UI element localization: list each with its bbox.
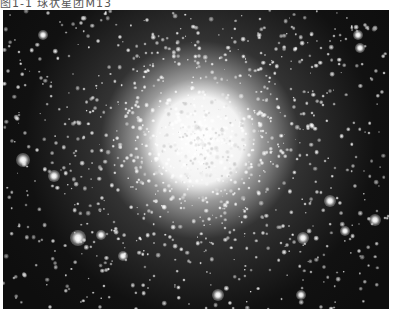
star (216, 178, 221, 183)
star (24, 84, 27, 87)
star (218, 109, 220, 111)
star (17, 226, 19, 228)
star (250, 173, 254, 177)
bright-star (16, 153, 30, 167)
star (154, 184, 158, 188)
star (9, 14, 11, 16)
star (188, 303, 190, 305)
star (329, 72, 334, 77)
star (200, 173, 204, 177)
star (329, 45, 334, 50)
star (150, 108, 155, 113)
star (4, 254, 9, 259)
star (228, 167, 232, 171)
star (252, 143, 255, 146)
star (29, 48, 34, 53)
star (210, 71, 214, 75)
star (75, 86, 80, 91)
star (145, 233, 150, 238)
star (239, 74, 243, 78)
star (182, 192, 187, 197)
star (93, 106, 97, 110)
star (238, 278, 241, 281)
star (67, 287, 70, 290)
star (232, 162, 237, 167)
star (162, 167, 164, 169)
star (159, 132, 161, 134)
star (314, 63, 319, 68)
star (296, 158, 299, 161)
star (179, 206, 182, 209)
star (223, 180, 225, 182)
star (220, 215, 223, 218)
bright-star (96, 230, 106, 240)
star (100, 298, 102, 300)
star (224, 226, 227, 229)
star (51, 161, 55, 165)
star (324, 160, 326, 162)
star (176, 32, 179, 35)
star (274, 47, 278, 51)
star (257, 32, 259, 34)
star (211, 137, 213, 139)
star (330, 58, 334, 62)
star (252, 129, 256, 133)
star (85, 100, 89, 104)
star (138, 126, 143, 131)
star (159, 106, 161, 108)
star (283, 154, 287, 158)
star (101, 82, 103, 84)
star (301, 198, 303, 200)
star (292, 240, 296, 244)
star (131, 125, 135, 129)
star (178, 224, 183, 229)
star (285, 148, 289, 152)
star (231, 130, 234, 133)
star (233, 229, 236, 232)
star (207, 127, 209, 129)
star (279, 112, 281, 114)
star (142, 291, 147, 296)
star (192, 122, 194, 124)
star (198, 122, 201, 125)
star (226, 159, 229, 162)
star (92, 291, 95, 294)
star (98, 263, 103, 268)
star (158, 169, 163, 174)
star (253, 232, 256, 235)
star (355, 155, 358, 158)
star (151, 160, 153, 162)
star (90, 131, 94, 135)
star (89, 111, 92, 114)
star (86, 211, 91, 216)
star (282, 181, 286, 185)
star (233, 181, 237, 185)
star (90, 178, 92, 180)
star (152, 119, 156, 123)
star (174, 259, 177, 262)
star (240, 122, 243, 125)
star (72, 73, 74, 75)
star (153, 275, 156, 278)
star (204, 208, 209, 213)
star (184, 14, 187, 17)
star (309, 142, 314, 147)
star (222, 207, 225, 210)
star (375, 241, 380, 246)
star (374, 180, 379, 185)
star (216, 128, 218, 130)
star (285, 243, 289, 247)
star (136, 181, 139, 184)
star (331, 175, 334, 178)
star (86, 34, 90, 38)
star (382, 176, 386, 180)
star (151, 148, 154, 151)
star (18, 122, 20, 124)
star (209, 224, 211, 226)
star (241, 138, 246, 143)
star (298, 264, 302, 268)
star (351, 29, 353, 31)
star (383, 71, 386, 74)
star (152, 223, 155, 226)
bright-star (297, 232, 309, 244)
